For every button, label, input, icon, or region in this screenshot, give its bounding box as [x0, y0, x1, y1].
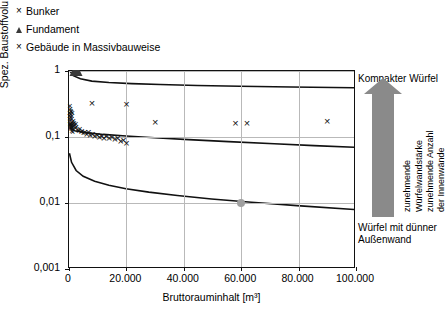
x-axis-tick-label: 80.000: [268, 272, 328, 284]
legend-label: Fundament: [26, 23, 79, 35]
annotation-vertical-2: Würfelwandstärke: [414, 140, 424, 212]
curve-wuerfel-duenne-aussenwand-unten: [69, 153, 354, 209]
y-axis-tick-label: 0,1: [14, 129, 60, 141]
x-axis-tick: [69, 267, 70, 271]
legend: × Bunker Fundament × Gebäude in Massivba…: [12, 2, 242, 56]
x-axis-title: Bruttorauminhalt [m³]: [68, 291, 355, 303]
x-cross-icon: ×: [12, 42, 26, 52]
annotation-bottom: Würfel mit dünner Außenwand: [358, 222, 444, 246]
annotation-vertical-4: der Innenwände: [436, 147, 446, 212]
x-axis-tick-label: 40.000: [153, 272, 213, 284]
y-axis-tick: [65, 137, 69, 138]
x-axis-tick: [184, 267, 185, 271]
annotation-panel: Kompakter Würfel zunehmende Würfelwandst…: [358, 70, 443, 268]
y-axis-tick: [65, 71, 69, 72]
y-axis-title: Spez. Baustoffvolumen [m³/m³ BRI]: [0, 0, 10, 96]
x-axis-tick: [241, 267, 242, 271]
x-axis-tick-label: 60.000: [210, 272, 270, 284]
curve-kompakter-wuerfel-oben: [70, 70, 354, 87]
y-axis-tick-label: 1: [14, 63, 60, 75]
x-axis-tick: [356, 267, 357, 271]
x-cross-icon: ×: [12, 6, 26, 16]
x-axis-tick-label: 20.000: [95, 272, 155, 284]
legend-item-bunker: × Bunker: [12, 2, 242, 20]
y-axis-tick-label: 0,01: [14, 195, 60, 207]
legend-item-gebaeude: × Gebäude in Massivbauweise: [12, 38, 242, 56]
triangle-icon: [12, 24, 26, 34]
gridline-horizontal: [69, 71, 354, 72]
gridline-vertical: [241, 71, 242, 267]
gridline-horizontal: [69, 203, 354, 204]
legend-label: Gebäude in Massivbauweise: [26, 41, 160, 53]
annotation-vertical-3: zunehmende Anzahl: [425, 130, 435, 212]
data-point-fundament: [70, 70, 83, 76]
curve-layer: [69, 71, 354, 267]
arrow-shaft-icon: [372, 92, 394, 217]
plot-area: [68, 70, 355, 268]
y-axis-tick: [65, 203, 69, 204]
data-point-bunker: [237, 199, 245, 207]
legend-item-fundament: Fundament: [12, 20, 242, 38]
x-axis-tick: [126, 267, 127, 271]
x-axis-tick-label: 100.000: [325, 272, 385, 284]
legend-label: Bunker: [26, 5, 59, 17]
annotation-vertical-1: zunehmende: [402, 160, 412, 212]
gridline-vertical: [299, 71, 300, 267]
gridline-vertical: [184, 71, 185, 267]
x-axis-tick: [299, 267, 300, 271]
x-axis-tick-label: 0: [38, 272, 98, 284]
